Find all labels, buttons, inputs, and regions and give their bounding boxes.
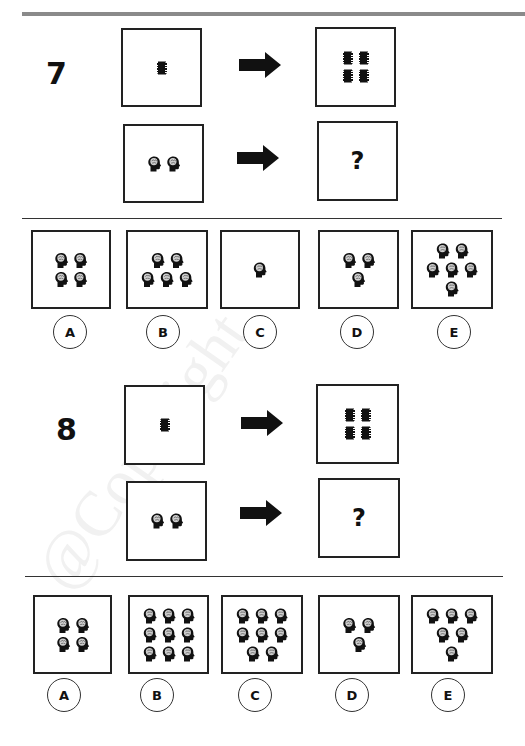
right-arrow-icon xyxy=(240,500,282,526)
option-d-box[interactable] xyxy=(318,230,399,309)
brain-head-group xyxy=(143,608,195,662)
microchip-icon xyxy=(346,427,354,440)
microchip-icon xyxy=(362,409,370,422)
problem-left-box xyxy=(123,124,204,203)
brain-head-icon xyxy=(55,271,69,287)
microchip-icon xyxy=(362,427,370,440)
brain-head-icon xyxy=(255,608,269,624)
icon-row xyxy=(426,262,478,278)
brain-head-icon xyxy=(55,252,69,268)
icon-row xyxy=(151,252,184,268)
brain-head-icon xyxy=(362,617,376,633)
option-c-label[interactable]: C xyxy=(243,315,277,349)
brain-head-icon xyxy=(253,262,267,278)
brain-head-group xyxy=(56,617,89,652)
right-arrow-icon xyxy=(237,145,279,171)
option-a-label[interactable]: A xyxy=(47,678,81,712)
brain-head-icon xyxy=(445,608,459,624)
option-a-box[interactable] xyxy=(31,230,111,309)
brain-head-icon xyxy=(361,252,375,268)
example-left-box xyxy=(121,28,202,107)
icon-row xyxy=(143,608,195,624)
brain-head-icon xyxy=(160,271,174,287)
brain-head-icon xyxy=(445,281,459,297)
example-right-box xyxy=(315,27,396,107)
option-c-label[interactable]: C xyxy=(238,678,272,712)
icon-row xyxy=(343,617,376,633)
brain-head-icon xyxy=(236,627,250,643)
brain-head-icon xyxy=(56,617,70,633)
icon-row xyxy=(236,608,288,624)
brain-head-icon xyxy=(445,262,459,278)
option-e-box[interactable] xyxy=(411,230,493,309)
brain-head-icon xyxy=(150,513,164,529)
question-number: 8 xyxy=(56,412,77,447)
brain-head-group xyxy=(343,617,376,652)
brain-head-icon xyxy=(455,243,469,259)
option-a-label[interactable]: A xyxy=(53,315,87,349)
brain-head-group xyxy=(55,252,88,287)
brain-head-icon xyxy=(274,627,288,643)
right-arrow-icon xyxy=(241,410,283,436)
option-e-label[interactable]: E xyxy=(431,678,465,712)
icon-row xyxy=(143,627,195,643)
microchip-group xyxy=(346,409,370,440)
brain-head-icon xyxy=(445,646,459,662)
brain-head-icon xyxy=(455,627,469,643)
brain-head-icon xyxy=(170,252,184,268)
option-c-box[interactable] xyxy=(220,230,300,309)
brain-head-icon xyxy=(342,252,356,268)
brain-head-icon xyxy=(274,608,288,624)
brain-head-icon xyxy=(181,646,195,662)
option-c-box[interactable] xyxy=(221,595,303,674)
brain-head-icon xyxy=(143,608,157,624)
brain-head-group xyxy=(150,513,183,529)
brain-head-icon xyxy=(426,608,440,624)
option-b-label[interactable]: B xyxy=(140,678,174,712)
microchip-icon xyxy=(161,419,169,432)
brain-head-icon xyxy=(352,636,366,652)
brain-head-icon xyxy=(464,608,478,624)
brain-head-icon xyxy=(75,617,89,633)
icon-row xyxy=(352,271,366,287)
brain-head-icon xyxy=(143,646,157,662)
microchip-group xyxy=(158,61,166,74)
icon-row xyxy=(436,627,469,643)
brain-head-icon xyxy=(236,608,250,624)
brain-head-icon xyxy=(75,636,89,652)
brain-head-icon xyxy=(74,271,88,287)
option-b-label[interactable]: B xyxy=(146,315,180,349)
microchip-icon xyxy=(344,52,352,65)
icon-row xyxy=(55,271,88,287)
icon-row xyxy=(236,627,288,643)
option-d-label[interactable]: D xyxy=(335,678,369,712)
question-number: 7 xyxy=(46,56,67,91)
brain-head-icon xyxy=(436,627,450,643)
brain-head-icon xyxy=(352,271,366,287)
problem-left-box xyxy=(126,481,207,561)
option-b-box[interactable] xyxy=(128,595,209,674)
option-d-label[interactable]: D xyxy=(340,315,374,349)
option-e-label[interactable]: E xyxy=(437,315,471,349)
brain-head-group xyxy=(426,608,478,662)
microchip-icon xyxy=(344,70,352,83)
icon-row xyxy=(143,646,195,662)
question-mark: ? xyxy=(320,504,398,532)
icon-row xyxy=(352,636,366,652)
brain-head-group xyxy=(147,156,180,172)
icon-row xyxy=(56,617,89,633)
option-b-box[interactable] xyxy=(126,230,208,309)
brain-head-icon xyxy=(74,252,88,268)
microchip-icon xyxy=(158,61,166,74)
option-a-box[interactable] xyxy=(33,595,112,674)
option-e-box[interactable] xyxy=(411,595,493,674)
icon-row xyxy=(150,513,183,529)
option-d-box[interactable] xyxy=(318,595,400,674)
icon-row xyxy=(55,252,88,268)
icon-row xyxy=(141,271,193,287)
brain-head-group xyxy=(342,252,375,287)
brain-head-icon xyxy=(181,608,195,624)
brain-head-icon xyxy=(179,271,193,287)
brain-head-icon xyxy=(162,627,176,643)
brain-head-icon xyxy=(147,156,161,172)
